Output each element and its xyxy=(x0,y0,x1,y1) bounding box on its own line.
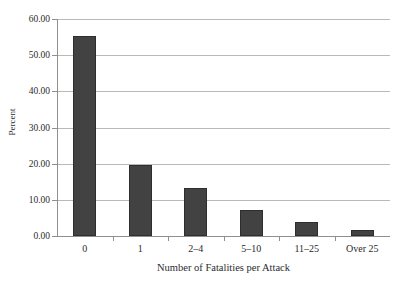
x-tick-label: Over 25 xyxy=(335,243,391,255)
x-tick-label: 1 xyxy=(113,243,169,255)
plot-area xyxy=(57,19,390,236)
gridline xyxy=(57,164,390,165)
y-tick-label: 50.00 xyxy=(6,50,50,60)
y-tick-label: 10.00 xyxy=(6,195,50,205)
y-tick-mark xyxy=(52,200,57,201)
gridline xyxy=(57,91,390,92)
x-tick-mark xyxy=(113,237,114,241)
x-tick-mark xyxy=(168,237,169,241)
x-tick-mark xyxy=(279,237,280,241)
gridline xyxy=(57,128,390,129)
x-tick-label: 5–10 xyxy=(224,243,280,255)
bar xyxy=(129,165,152,236)
y-tick-mark xyxy=(52,128,57,129)
gridline xyxy=(57,19,390,20)
y-tick-mark xyxy=(52,19,57,20)
x-tick-mark xyxy=(224,237,225,241)
y-tick-mark xyxy=(52,236,57,237)
y-tick-label: 60.00 xyxy=(6,14,50,24)
bar xyxy=(184,188,207,236)
bar xyxy=(295,222,318,236)
y-tick-mark xyxy=(52,55,57,56)
x-tick-label: 11–25 xyxy=(279,243,335,255)
x-axis-title: Number of Fatalities per Attack xyxy=(57,262,390,273)
x-tick-mark xyxy=(335,237,336,241)
y-tick-mark xyxy=(52,91,57,92)
gridline xyxy=(57,55,390,56)
bar xyxy=(73,36,96,236)
bar xyxy=(240,210,263,236)
y-tick-mark xyxy=(52,164,57,165)
y-axis-line xyxy=(57,19,58,237)
gridline xyxy=(57,200,390,201)
x-tick-label: 0 xyxy=(57,243,113,255)
bar-chart: 0.0010.0020.0030.0040.0050.0060.00 Numbe… xyxy=(0,0,412,287)
x-tick-label: 2–4 xyxy=(168,243,224,255)
y-tick-label: 0.00 xyxy=(6,231,50,241)
y-axis-title: Percent xyxy=(7,72,17,172)
